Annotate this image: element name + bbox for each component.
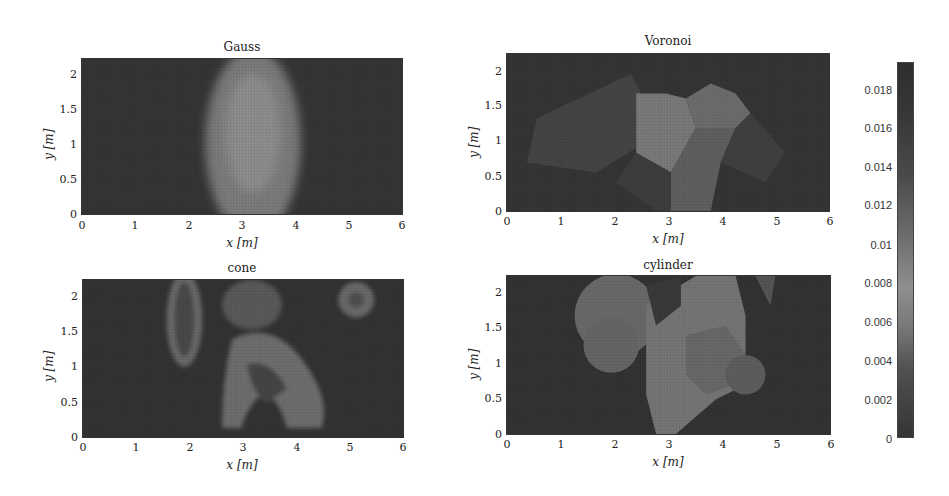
y-axis-label: y [m]	[42, 129, 56, 160]
colorbar-tick: 0.008	[864, 277, 892, 289]
y-tick: 2	[70, 68, 77, 81]
x-tick: 6	[827, 215, 834, 228]
x-tick: 2	[612, 438, 619, 451]
y-tick: 1	[71, 360, 78, 373]
x-tick: 2	[187, 441, 194, 454]
x-tick: 3	[240, 441, 247, 454]
y-tick: 0	[495, 428, 502, 441]
x-tick: 4	[294, 441, 301, 454]
y-tick: 1.5	[60, 103, 78, 116]
x-axis-label: x [m]	[226, 458, 257, 472]
heatmap-cone	[82, 279, 404, 438]
panel-title: cylinder	[643, 258, 692, 272]
x-tick: 6	[399, 219, 406, 232]
x-tick: 5	[347, 441, 354, 454]
colorbar-tick: 0.01	[871, 239, 892, 251]
y-tick: 1	[495, 134, 502, 147]
y-axis-label: y [m]	[467, 127, 481, 158]
x-tick: 4	[720, 215, 727, 228]
y-tick: 0.5	[485, 392, 503, 405]
colorbar-tick: 0.012	[864, 199, 892, 211]
x-tick: 1	[558, 438, 565, 451]
y-tick: 1.5	[485, 99, 503, 112]
colorbar-tick: 0.018	[864, 84, 892, 96]
x-tick: 3	[239, 219, 246, 232]
x-tick: 0	[504, 438, 511, 451]
panel-title: Gauss	[224, 40, 261, 54]
x-tick: 6	[828, 438, 835, 451]
heatmap-voronoi	[506, 53, 830, 212]
y-tick: 0	[70, 208, 77, 221]
panel-title: Voronoi	[645, 34, 692, 48]
x-tick: 5	[346, 219, 353, 232]
x-tick: 6	[400, 441, 407, 454]
y-tick: 2	[495, 286, 502, 299]
x-axis-label: x [m]	[652, 232, 683, 246]
x-tick: 0	[80, 441, 87, 454]
x-tick: 3	[666, 215, 673, 228]
x-tick: 4	[293, 219, 300, 232]
y-tick: 0	[71, 431, 78, 444]
x-tick: 2	[612, 215, 619, 228]
y-axis-label: y [m]	[42, 351, 56, 382]
x-tick: 1	[558, 215, 565, 228]
colorbar-tick: 0.016	[864, 122, 892, 134]
x-tick: 3	[666, 438, 673, 451]
colorbar-tick: 0.004	[864, 355, 892, 367]
y-tick: 0.5	[60, 173, 78, 186]
y-tick: 0	[495, 205, 502, 218]
heatmap-cylinder	[506, 275, 831, 435]
colorbar-tick: 0.006	[864, 316, 892, 328]
heatmap-gauss	[81, 58, 403, 215]
y-tick: 1	[495, 357, 502, 370]
panel-title: cone	[228, 261, 257, 275]
colorbar-tick: 0	[886, 433, 892, 445]
x-tick: 5	[774, 438, 781, 451]
x-axis-label: x [m]	[226, 236, 257, 250]
x-tick: 5	[774, 215, 781, 228]
x-tick: 1	[133, 441, 140, 454]
x-tick: 0	[79, 219, 86, 232]
y-tick: 0.5	[485, 170, 503, 183]
x-tick: 1	[132, 219, 139, 232]
y-tick: 1	[70, 138, 77, 151]
x-tick: 4	[720, 438, 727, 451]
y-tick: 2	[495, 65, 502, 78]
colorbar-tick: 0.014	[864, 161, 892, 173]
colorbar	[897, 62, 914, 438]
y-tick: 2	[71, 290, 78, 303]
colorbar-tick: 0.002	[864, 394, 892, 406]
y-tick: 0.5	[61, 396, 79, 409]
x-tick: 0	[504, 215, 511, 228]
y-tick: 1.5	[485, 321, 503, 334]
y-tick: 1.5	[61, 325, 79, 338]
x-tick: 2	[186, 219, 193, 232]
x-axis-label: x [m]	[652, 455, 683, 469]
y-axis-label: y [m]	[467, 349, 481, 380]
